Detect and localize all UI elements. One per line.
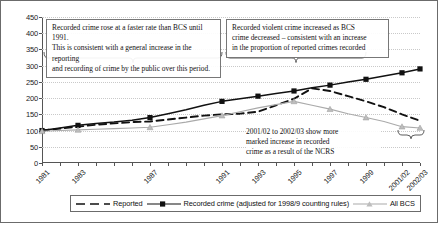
x-axis-tick-mark [240, 163, 241, 166]
y-axis-tick-label: 300 [26, 61, 38, 70]
light-line-triangle-marker-swatch [353, 200, 387, 208]
x-axis-tick-mark [96, 163, 97, 166]
x-axis-tick-label: 1991 [214, 168, 232, 186]
x-axis-tick-mark [42, 163, 43, 166]
x-axis-tick-mark [114, 163, 115, 166]
x-axis-tick-mark [420, 163, 421, 166]
dashed-line-swatch [76, 200, 110, 208]
x-axis-tick-label: 1983 [70, 168, 88, 186]
legend-label: Recorded crime (adjusted for 1998/9 coun… [184, 199, 349, 208]
x-axis-tick-mark [384, 163, 385, 166]
chart-legend: Reported Recorded crime (adjusted for 19… [70, 195, 421, 212]
y-axis-tick-label: 100 [26, 126, 38, 135]
x-axis-tick-mark [366, 163, 367, 166]
annotation-line: This is consistent with a general increa… [52, 43, 216, 63]
legend-item-all-bcs[interactable]: All BCS [353, 199, 415, 208]
x-axis-tick-mark [204, 163, 205, 166]
x-axis-tick-label: 1987 [142, 168, 160, 186]
x-axis-tick-label: 1993 [250, 168, 268, 186]
annotation-line: crime as a result of the NCRS [246, 147, 381, 157]
y-axis-tick-label: 200 [26, 94, 38, 103]
annotation-line: and recording of crime by the public ove… [52, 64, 216, 74]
annotation-violent-crime: Recorded violent crime increased as BCS … [226, 19, 389, 58]
annotation-line: marked increase in recorded [246, 137, 381, 147]
x-axis-tick-mark [294, 163, 295, 166]
x-axis-tick-mark [186, 163, 187, 166]
x-axis-tick-mark [132, 163, 133, 166]
x-axis-tick-label: 1999 [358, 168, 376, 186]
y-axis-tick-label: 50 [30, 142, 38, 151]
solid-line-square-marker-swatch [147, 200, 181, 208]
legend-item-reported[interactable]: Reported [76, 199, 143, 208]
y-axis-tick-label: 450 [26, 13, 38, 22]
annotation-recorded-vs-bcs: Recorded crime rose at a faster rate tha… [46, 19, 221, 78]
annotation-line: 2001/02 to 2002/03 show more [246, 127, 381, 137]
annotation-ncrs: 2001/02 to 2002/03 show more marked incr… [246, 127, 381, 158]
legend-label: Reported [113, 199, 143, 208]
y-axis-tick-label: 0 [34, 159, 38, 168]
legend-label: All BCS [390, 199, 415, 208]
annotation-brace [398, 130, 424, 139]
x-axis-tick-mark [312, 163, 313, 166]
x-axis-tick-mark [60, 163, 61, 166]
legend-item-recorded-crime[interactable]: Recorded crime (adjusted for 1998/9 coun… [147, 199, 349, 208]
x-axis-tick-mark [78, 163, 79, 166]
x-axis-tick-mark [258, 163, 259, 166]
y-axis-tick-label: 150 [26, 110, 38, 119]
x-axis-tick-mark [330, 163, 331, 166]
annotation-line: crime decreased – consistent with an inc… [232, 33, 384, 43]
x-axis-tick-mark [402, 163, 403, 166]
x-axis-tick-mark [168, 163, 169, 166]
annotation-line: Recorded violent crime increased as BCS [232, 23, 384, 33]
y-axis-tick-label: 250 [26, 77, 38, 86]
annotation-line: in the proportion of reported crimes rec… [232, 43, 384, 53]
x-axis-tick-label: 1995 [286, 168, 304, 186]
x-axis-tick-label: 1981 [34, 168, 52, 186]
y-axis-tick-label: 350 [26, 45, 38, 54]
x-axis-tick-mark [150, 163, 151, 166]
x-axis-tick-mark [222, 163, 223, 166]
x-axis-tick-label: 1997 [322, 168, 340, 186]
annotation-line: Recorded crime rose at a faster rate tha… [52, 23, 216, 43]
x-axis-tick-mark [348, 163, 349, 166]
chart-figure: 050100150200250300350400450 198119831987… [0, 0, 438, 223]
y-axis-tick-label: 400 [26, 29, 38, 38]
x-axis-tick-mark [276, 163, 277, 166]
